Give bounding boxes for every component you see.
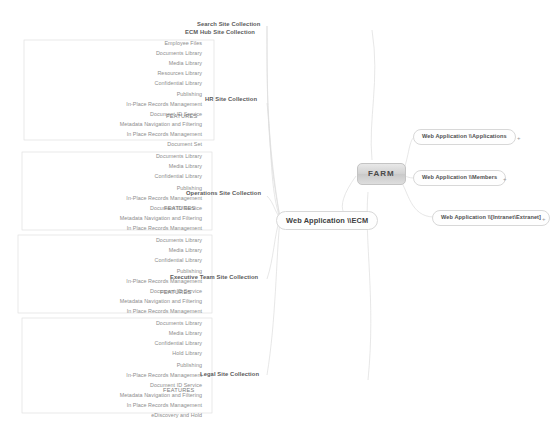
leaf-hr-library-3[interactable]: Resources Library: [157, 71, 202, 76]
leaf-hr-library-1[interactable]: Documents Library: [156, 51, 202, 56]
collection-title-legal[interactable]: Legal Site Collection: [200, 372, 259, 378]
leaf-hr-feature-4[interactable]: In Place Records Management: [127, 132, 202, 137]
leaf-hr-feature-0[interactable]: Publishing: [177, 92, 202, 97]
leaf-hr-feature-3[interactable]: Metadata Navigation and Filtering: [120, 122, 202, 127]
expander-applications[interactable]: +: [517, 135, 521, 141]
collection-title-ecm-hub[interactable]: ECM Hub Site Collection: [185, 30, 255, 36]
link-legal-ecm: [267, 219, 280, 375]
collection-title-search[interactable]: Search Site Collection: [197, 22, 260, 28]
expander-members[interactable]: +: [503, 176, 507, 182]
features-node-legal[interactable]: FEATURES: [163, 388, 194, 394]
leaf-hr-library-4[interactable]: Confidential Library: [155, 81, 202, 86]
leaf-operations-library-0[interactable]: Documents Library: [156, 154, 202, 159]
webapp-label-intranet-extranet: Web Application \\[Intranet\Extranet]: [432, 210, 550, 226]
leaf-hr-feature-1[interactable]: In-Place Records Management: [126, 102, 202, 107]
leaf-legal-library-1[interactable]: Media Library: [169, 331, 202, 336]
expander-intranet-extranet[interactable]: +: [542, 216, 546, 222]
webapp-label-applications: Web Application \\Applications: [413, 129, 516, 145]
leaf-legal-feature-3[interactable]: Metadata Navigation and Filtering: [120, 393, 202, 398]
leaf-executive-library-1[interactable]: Media Library: [169, 248, 202, 253]
leaf-executive-library-2[interactable]: Confidential Library: [155, 258, 202, 263]
webapp-label-ecm: Web Application \\ECM: [276, 211, 378, 230]
leaf-hr-library-0[interactable]: Employee Files: [164, 41, 202, 46]
leaf-legal-feature-5[interactable]: eDiscovery and Hold: [151, 413, 202, 418]
mindmap-canvas: Search Site Collection ECM Hub Site Coll…: [0, 0, 560, 439]
leaf-legal-library-0[interactable]: Documents Library: [156, 321, 202, 326]
link-spine-hub: [267, 33, 280, 218]
leaf-operations-library-2[interactable]: Confidential Library: [155, 174, 202, 179]
leaf-legal-feature-0[interactable]: Publishing: [177, 363, 202, 368]
leaf-hr-library-2[interactable]: Media Library: [169, 61, 202, 66]
webapp-node-intranet-extranet[interactable]: Web Application \\[Intranet\Extranet]: [432, 210, 550, 226]
link-spine-top: [267, 26, 280, 218]
collection-title-operations[interactable]: Operations Site Collection: [186, 191, 261, 197]
leaf-operations-library-1[interactable]: Media Library: [169, 164, 202, 169]
webapp-node-members[interactable]: Web Application \\Members: [413, 170, 506, 186]
leaf-executive-feature-3[interactable]: Metadata Navigation and Filtering: [120, 299, 202, 304]
collection-title-executive[interactable]: Executive Team Site Collection: [170, 275, 258, 281]
features-node-executive[interactable]: FEATURES: [160, 290, 191, 296]
features-node-hr[interactable]: FEATURES: [166, 114, 197, 120]
root-node-farm[interactable]: FARM: [357, 163, 406, 185]
webapp-label-members: Web Application \\Members: [413, 170, 506, 186]
root-label-farm: FARM: [357, 163, 406, 185]
leaf-legal-feature-1[interactable]: In-Place Records Management: [126, 373, 202, 378]
link-hr-ecm: [267, 103, 280, 218]
leaf-legal-feature-4[interactable]: In Place Records Management: [127, 403, 202, 408]
leaf-executive-feature-4[interactable]: In Place Records Management: [127, 309, 202, 314]
leaf-operations-feature-3[interactable]: Metadata Navigation and Filtering: [120, 216, 202, 221]
leaf-executive-library-0[interactable]: Documents Library: [156, 238, 202, 243]
leaf-legal-library-2[interactable]: Confidential Library: [155, 341, 202, 346]
leaf-legal-library-3[interactable]: Hold Library: [172, 351, 202, 356]
leaf-hr-feature-5[interactable]: Document Set: [167, 142, 202, 147]
features-node-operations[interactable]: FEATURES: [164, 206, 195, 212]
webapp-node-applications[interactable]: Web Application \\Applications: [413, 129, 516, 145]
webapp-node-ecm[interactable]: Web Application \\ECM: [276, 211, 378, 230]
collection-title-hr[interactable]: HR Site Collection: [205, 97, 257, 103]
link-farm-top-curve: [371, 30, 375, 160]
leaf-operations-feature-4[interactable]: In Place Records Management: [127, 226, 202, 231]
leaf-operations-feature-1[interactable]: In-Place Records Management: [126, 196, 202, 201]
